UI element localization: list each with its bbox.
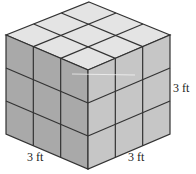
cube-diagram	[0, 0, 196, 174]
label-bottom-left-edge: 3 ft	[27, 150, 43, 165]
label-right-edge: 3 ft	[173, 81, 189, 96]
label-bottom-right-edge: 3 ft	[128, 150, 144, 165]
